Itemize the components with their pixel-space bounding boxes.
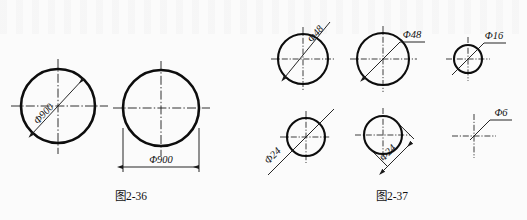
fig237-crosshair-6: Φ6 xyxy=(452,107,512,158)
figure-caption-2-36: 图2-36 xyxy=(115,190,147,202)
dimension-text: Φ6 xyxy=(494,107,508,118)
extension-line-upper xyxy=(396,122,414,139)
diameter-leader-line xyxy=(470,120,512,140)
fig237-circle-1: Φ48 xyxy=(271,22,335,91)
dimension-text: Φ900 xyxy=(149,154,173,165)
fig236-circle-left: Φ900 xyxy=(11,59,108,154)
drawing-page: Φ900 Φ900 图2-36 Φ48 Φ48 xyxy=(0,0,527,220)
drawing-canvas: Φ900 Φ900 图2-36 Φ48 Φ48 xyxy=(0,0,527,220)
diameter-leader-line xyxy=(365,42,425,77)
dimension-text: Φ48 xyxy=(305,23,326,45)
fig237-circle-5: Φ24 xyxy=(355,108,414,171)
dimension-text: Φ900 xyxy=(31,101,56,126)
fig237-circle-2: Φ48 xyxy=(350,26,425,92)
fig237-circle-4: Φ24 xyxy=(262,109,334,175)
dimension-text: Φ24 xyxy=(377,142,398,163)
fig236-circle-right: Φ900 xyxy=(113,61,210,172)
dimension-text: Φ48 xyxy=(403,29,422,40)
dimension-text: Φ16 xyxy=(485,30,504,41)
figure-caption-2-37: 图2-37 xyxy=(376,190,408,202)
fig237-circle-3: Φ16 xyxy=(446,30,506,81)
